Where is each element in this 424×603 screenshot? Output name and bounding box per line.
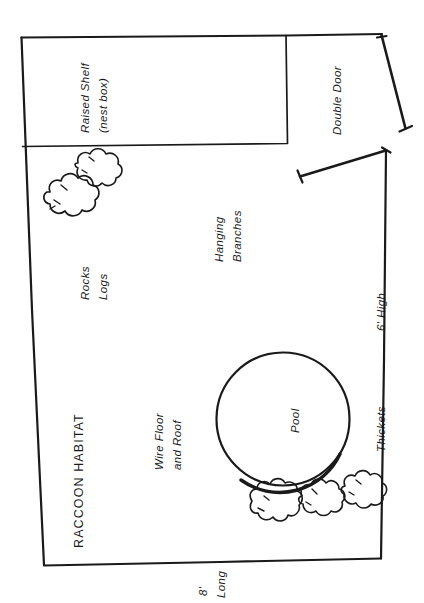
thicket-bush-1-twig — [258, 496, 269, 511]
door-panel-lower — [300, 151, 386, 177]
dimension-length-unit: Long — [215, 571, 227, 598]
label-nest-box: (nest box) — [96, 78, 110, 133]
label-wire-floor-text: Wire Floor — [153, 413, 165, 470]
label-thickets: Thickets — [374, 406, 388, 452]
label-pool: Pool — [288, 408, 302, 433]
thicket-bush-2 — [299, 479, 345, 515]
dimension-height-text: 6' High — [375, 293, 387, 331]
label-rocks: Rocks — [78, 266, 92, 300]
label-branches-text: Branches — [231, 210, 243, 262]
enclosure-outline-bottom-wall — [44, 559, 381, 566]
scrub-bush-lower — [44, 174, 99, 216]
scrub-bush-upper — [75, 149, 122, 186]
label-raised-shelf-line1: Raised Shelf — [79, 63, 91, 133]
label-pool-text: Pool — [289, 408, 301, 433]
dimension-height: 6' High — [374, 293, 388, 331]
label-hanging-text: Hanging — [213, 216, 225, 262]
page-title-text: RACCOON HABITAT — [72, 413, 86, 548]
door-panel-upper-hinge-tick — [377, 36, 387, 38]
label-double-door: Double Door — [330, 66, 344, 135]
label-and-roof-text: and Roof — [171, 420, 183, 470]
page-title: RACCOON HABITAT — [72, 413, 88, 548]
dimension-length-value: 8' — [197, 587, 209, 596]
thicket-bush-2-twig — [306, 489, 317, 505]
dimension-length-line1: 8' — [196, 587, 210, 596]
habitat-floorplan-drawing — [0, 0, 424, 603]
enclosure-outline-upper — [22, 34, 383, 38]
pool-circle — [217, 353, 350, 486]
nest-box-rectangle — [23, 36, 288, 147]
door-panel-upper — [382, 35, 406, 129]
label-double-door-text: Double Door — [331, 66, 343, 135]
diagram-canvas: Raised Shelf (nest box) Double Door Rock… — [0, 0, 424, 603]
label-nest-box-line1: (nest box) — [97, 78, 109, 133]
enclosure-outline-left-wall — [22, 38, 45, 566]
label-wire-floor-line1: Wire Floor — [152, 413, 166, 470]
thicket-bush-3-twig — [349, 480, 361, 495]
scrub-bush-lower-twig — [50, 185, 67, 209]
dimension-length-line2: Long — [214, 571, 228, 598]
pool-shadow-arc — [241, 454, 340, 492]
scrub-bush-upper-twig — [82, 157, 94, 173]
label-hanging-branches-line1: Hanging — [212, 216, 226, 262]
label-rocks-text: Rocks — [79, 266, 91, 300]
thicket-bush-3 — [341, 471, 387, 508]
label-raised-shelf: Raised Shelf — [78, 63, 92, 133]
label-hanging-branches-line2: Branches — [230, 210, 244, 262]
label-logs: Logs — [96, 273, 110, 300]
label-wire-floor-line2: and Roof — [170, 420, 184, 470]
label-logs-text: Logs — [97, 273, 109, 300]
label-thickets-text: Thickets — [375, 406, 387, 452]
